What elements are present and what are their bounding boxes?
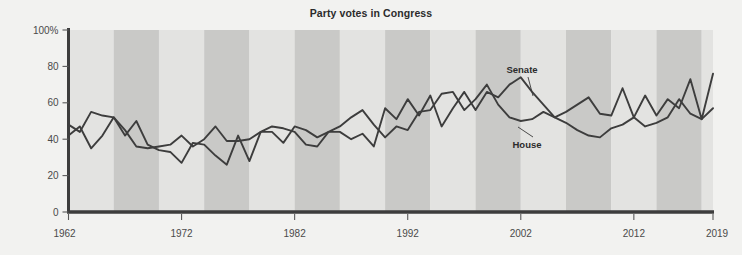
background-band xyxy=(611,30,656,212)
background-band xyxy=(702,30,713,212)
background-bands xyxy=(69,30,714,212)
y-tick-label: 60 xyxy=(47,97,59,108)
x-tick-label: 1992 xyxy=(397,228,420,239)
y-tick-label: 0 xyxy=(53,207,59,218)
background-band xyxy=(656,30,701,212)
series-label-senate: Senate xyxy=(506,64,537,75)
x-tick-label: 1972 xyxy=(170,228,193,239)
y-tick-label: 80 xyxy=(47,61,59,72)
background-band xyxy=(385,30,430,212)
background-band xyxy=(476,30,521,212)
background-band xyxy=(204,30,249,212)
background-band xyxy=(249,30,294,212)
series-label-house: House xyxy=(512,139,541,150)
background-band xyxy=(69,30,114,212)
background-band xyxy=(566,30,611,212)
x-tick-label: 2002 xyxy=(510,228,533,239)
y-tick-label: 100% xyxy=(33,25,59,36)
line-chart-plot: 020406080100%196219721982199220022012201… xyxy=(0,0,742,255)
x-tick-label: 1962 xyxy=(53,228,76,239)
y-tick-label: 20 xyxy=(47,170,59,181)
x-tick-label: 2012 xyxy=(623,228,646,239)
y-tick-label: 40 xyxy=(47,134,59,145)
x-tick-label: 2019 xyxy=(706,228,729,239)
chart-figure: Party votes in Congress 020406080100%196… xyxy=(0,0,742,255)
background-band xyxy=(521,30,566,212)
x-tick-label: 1982 xyxy=(284,228,307,239)
background-band xyxy=(159,30,204,212)
background-band xyxy=(295,30,340,212)
background-band xyxy=(430,30,475,212)
